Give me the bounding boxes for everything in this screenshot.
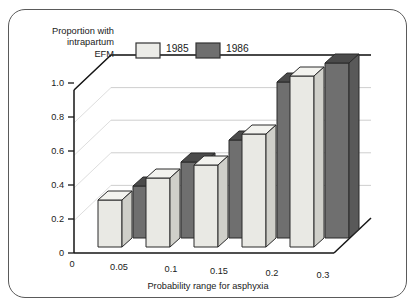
y-tick-marks [68,83,74,253]
legend-swatch-1986 [196,43,220,58]
legend-label-1986: 1986 [226,43,249,54]
y-tick-label-0.2: 0.2 [38,214,64,224]
x-tick-label-0.3: 0.3 [303,270,343,280]
bar-1985-cat-2 [194,156,228,247]
figure-root: Proportion withintrapartumEFM 1.0 0.8 0.… [0,0,417,308]
legend-label-1985: 1985 [166,43,189,54]
bar-1985-cat-3 [242,125,276,247]
x-tick-label-0.15: 0.15 [199,266,239,276]
y-axis-label-line3: EFM [94,49,114,59]
y-tick-label-0.6: 0.6 [38,146,64,156]
x-tick-label-0.2: 0.2 [252,268,292,278]
legend-swatch-1985 [136,43,160,58]
y-axis-label: Proportion withintrapartumEFM [18,26,114,60]
y-tick-label-1.0: 1.0 [38,78,64,88]
x-tick-label-0.05: 0.05 [99,262,139,272]
y-axis-label-line1: Proportion with [52,26,114,36]
y-tick-label-0.8: 0.8 [38,112,64,122]
bar-1985-cat-1 [146,169,180,247]
y-tick-label-0.4: 0.4 [38,180,64,190]
x-tick-label-0.1: 0.1 [151,264,191,274]
y-tick-label-0: 0 [38,248,64,258]
bar-1985-cat-4 [290,67,324,247]
bar-1985-cat-0 [98,191,132,247]
bar-1986-cat-4 [325,54,359,238]
x-axis-title: Probability range for asphyxia [88,281,328,291]
x-tick-label-0: 0 [52,259,92,269]
y-axis-label-line2: intrapartum [67,37,114,47]
